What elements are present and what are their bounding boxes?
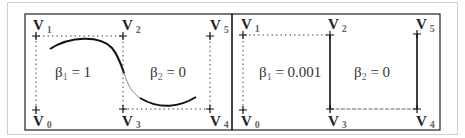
plus-icon — [206, 105, 214, 113]
plus-icon — [239, 31, 247, 39]
plus-icon — [206, 32, 214, 40]
plus-icon — [326, 105, 334, 113]
vertex-label-v5: V5 — [210, 17, 229, 35]
vertex-label-v1: V1 — [33, 17, 52, 35]
vertex-label-v1: V1 — [241, 16, 260, 34]
right-panel: V1 V2 V5 V0 V3 V4 β1 = 0.001 β2 = 0 — [239, 16, 435, 130]
beta1-label: β1 = 0.001 — [259, 64, 321, 82]
vertex-label-v5: V5 — [416, 16, 435, 34]
plus-icon — [119, 32, 127, 40]
left-panel: V1 V2 V5 V0 V3 V4 β1 = 1 β2 = 0 — [32, 17, 229, 130]
beta2-label: β2 = 0 — [354, 64, 390, 82]
plus-icon — [326, 31, 334, 39]
plus-icon — [119, 105, 127, 113]
plus-icon — [413, 105, 421, 113]
vertex-label-v3: V3 — [122, 113, 141, 130]
vertex-label-v0: V0 — [33, 113, 52, 130]
plus-icon — [32, 32, 40, 40]
vertex-label-v2: V2 — [122, 17, 141, 35]
vertex-label-v4: V4 — [416, 113, 435, 130]
vertex-label-v4: V4 — [210, 113, 229, 130]
vertex-label-v0: V0 — [241, 113, 260, 130]
beta2-label: β2 = 0 — [150, 64, 186, 82]
vertex-label-v3: V3 — [328, 113, 347, 130]
curve-segment-2 — [140, 97, 196, 106]
spline-diagram: V1 V2 V5 V0 V3 V4 β1 = 1 β2 = 0 V1 V2 V5… — [0, 0, 465, 138]
beta1-label: β1 = 1 — [55, 64, 91, 82]
vertex-label-v2: V2 — [328, 16, 347, 34]
curve-transition — [124, 73, 140, 98]
